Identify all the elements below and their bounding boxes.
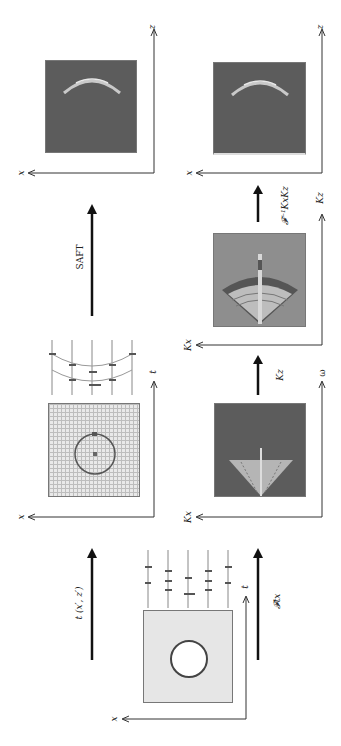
axis-label-z: z: [315, 25, 325, 30]
spectrum-triangle-icon: [215, 404, 307, 498]
saft-image-panel: [45, 60, 137, 153]
kz-spectrum-panel: [213, 233, 306, 327]
arc-reflection-icon: [46, 61, 138, 154]
arrow-label-saft: SAFT: [75, 245, 85, 270]
axis-label-omega: ω: [317, 369, 327, 376]
axis-label-x: x: [16, 170, 26, 175]
sampling-grid-panel: [48, 403, 140, 497]
arrow-label-fourier-tx: 𝓕tx: [272, 594, 283, 610]
axis-label-x: x: [16, 514, 26, 519]
axis-label-kx: Kx: [183, 511, 193, 523]
axis-label-x: x: [184, 170, 194, 175]
arc-reflection-icon: [214, 63, 307, 156]
circle-aperture-icon: [49, 404, 141, 498]
axis-label-x: x: [109, 716, 119, 721]
axis-label-z: z: [147, 25, 157, 30]
phantom-panel: [143, 610, 233, 703]
axis-label-kx: Kx: [183, 339, 193, 351]
fk-image-panel: [213, 62, 306, 155]
axis-label-t: t: [240, 585, 250, 589]
circular-inclusion-icon: [144, 611, 234, 704]
spectrum-fan-icon: [214, 234, 307, 328]
fk-spectrum-panel: [214, 403, 306, 497]
arrow-label-inverse-fourier: 𝓕⁻¹KxKz: [280, 186, 291, 225]
arrow-label-time-of-flight: t (x′, z′): [74, 586, 84, 619]
axis-label-t: t: [148, 370, 158, 374]
axis-label-kz: Kz: [315, 192, 325, 203]
arrow-label-kz: Kz: [275, 369, 285, 380]
